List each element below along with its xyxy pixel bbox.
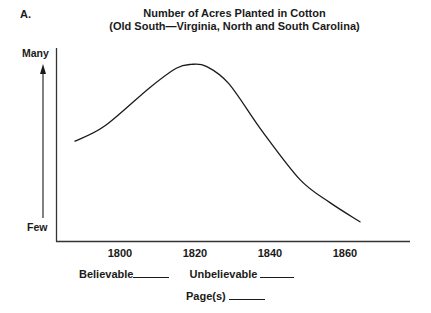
x-tick-label: 1820 — [175, 247, 215, 259]
unbelievable-label: Unbelievable — [190, 268, 258, 280]
pages-blank[interactable] — [229, 299, 265, 300]
data-line — [75, 64, 360, 222]
pages-label: Page(s) — [186, 290, 226, 302]
believable-label: Believable — [79, 268, 133, 280]
believable-blank[interactable] — [133, 277, 169, 278]
x-tick-label: 1800 — [100, 247, 140, 259]
chart-plot — [0, 0, 431, 313]
pages-row: Page(s) — [186, 290, 265, 302]
unbelievable-blank[interactable] — [260, 277, 294, 278]
x-tick-label: 1860 — [325, 247, 365, 259]
up-arrow-icon — [40, 64, 46, 218]
x-tick-label: 1840 — [250, 247, 290, 259]
believable-row: Believable Unbelievable — [79, 268, 294, 280]
